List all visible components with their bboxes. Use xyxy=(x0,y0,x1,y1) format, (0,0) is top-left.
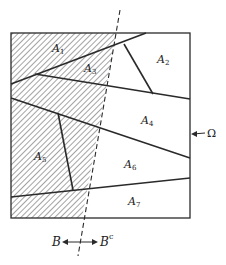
omega-label: Ω xyxy=(207,127,216,140)
region-label-a6: A6 xyxy=(123,158,137,172)
region-label-a4: A4 xyxy=(140,114,154,128)
b-complement-label: B xyxy=(99,235,109,249)
region-label-a2: A2 xyxy=(156,53,169,67)
region-label-a7: A7 xyxy=(127,195,140,209)
b-complement-superscript: c xyxy=(109,232,114,241)
partition-diagram: A1A2A3A4A5A6A7 Ω B B c xyxy=(0,0,226,265)
omega-arrowhead-icon xyxy=(191,131,197,137)
b-label: B xyxy=(51,235,61,249)
boundary-a2-a3 xyxy=(124,44,153,94)
arrowhead-right-icon xyxy=(92,239,98,245)
arrowhead-left-icon xyxy=(62,239,68,245)
